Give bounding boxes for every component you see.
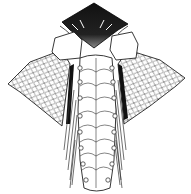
left-head-plate [52, 32, 82, 60]
trunk [78, 55, 116, 191]
left-fin [8, 50, 70, 126]
right-head-plate [110, 32, 138, 60]
illustration [0, 0, 191, 194]
organism-drawing [0, 0, 191, 194]
right-fin [118, 50, 185, 124]
